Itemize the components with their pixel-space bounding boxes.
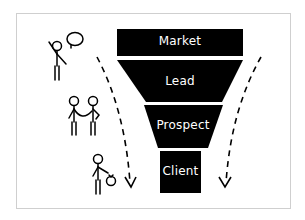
stage-client-label: Client bbox=[156, 164, 205, 178]
stage-market-label: Market bbox=[117, 34, 243, 48]
funnel-diagram bbox=[0, 0, 305, 220]
person-talking-icon bbox=[49, 33, 83, 81]
two-people-icon bbox=[69, 97, 99, 136]
stage-prospect-label: Prospect bbox=[140, 118, 226, 132]
stage-lead-label: Lead bbox=[117, 74, 243, 88]
person-money-bag-icon bbox=[93, 155, 116, 195]
